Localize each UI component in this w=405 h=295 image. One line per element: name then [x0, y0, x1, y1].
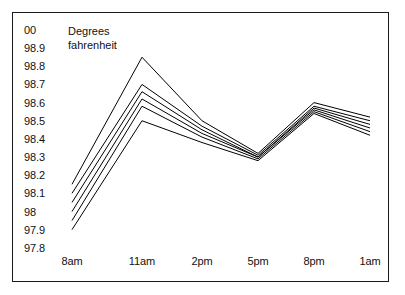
temperature-line-chart: 0098.998.898.798.698.598.498.398.298.198… [0, 0, 405, 295]
x-axis-tick-labels: 8am11am2pm5pm8pm1am [0, 256, 405, 272]
x-tick-label: 2pm [191, 256, 212, 267]
x-tick-label: 11am [129, 256, 155, 267]
series-line [72, 57, 370, 184]
plot-area [0, 0, 405, 295]
x-tick-label: 8pm [303, 256, 324, 267]
series-canvas [0, 0, 405, 295]
x-tick-label: 1am [359, 256, 380, 267]
x-tick-label: 8am [61, 256, 82, 267]
x-tick-label: 5pm [247, 256, 268, 267]
